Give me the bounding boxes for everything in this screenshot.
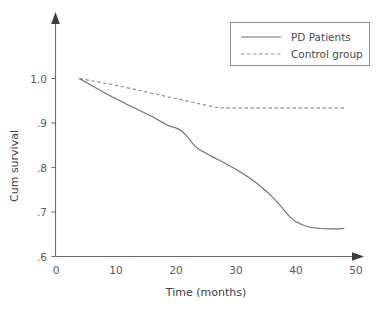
- y-tick-label: 1.0: [30, 73, 47, 85]
- series-line-control-group: [80, 79, 344, 108]
- y-axis-tick-labels: 1.0 .9 .8 .7 .6: [30, 73, 47, 263]
- y-tick-label: .8: [37, 162, 47, 174]
- y-tick-label: .6: [37, 251, 47, 263]
- x-tick-label: 50: [349, 264, 362, 276]
- x-axis-tick-labels: 0 10 20 30 40 50: [53, 264, 363, 276]
- x-tick-label: 10: [109, 264, 122, 276]
- x-tick-label: 40: [289, 264, 302, 276]
- x-axis-arrow-icon: [352, 252, 364, 261]
- y-axis-ticks: [52, 79, 56, 257]
- legend-label: Control group: [291, 48, 363, 60]
- y-axis-arrow-icon: [51, 12, 60, 24]
- survival-chart-figure: 1.0 .9 .8 .7 .6 0 10 20 30 40 50 Time (m…: [0, 0, 384, 315]
- y-tick-label: .9: [37, 117, 47, 129]
- y-axis-title: Cum survival: [8, 130, 21, 202]
- x-axis: [56, 252, 365, 261]
- x-tick-label: 30: [229, 264, 242, 276]
- x-axis-title: Time (months): [165, 286, 246, 299]
- plot-series-group: [80, 79, 344, 229]
- y-axis: [51, 12, 60, 257]
- x-tick-label: 0: [53, 264, 60, 276]
- x-tick-label: 20: [169, 264, 182, 276]
- y-tick-label: .7: [37, 206, 47, 218]
- chart-legend[interactable]: PD Patients Control group: [231, 23, 370, 66]
- series-line-pd-patients: [80, 79, 344, 229]
- legend-label: PD Patients: [291, 31, 351, 43]
- chart-svg: 1.0 .9 .8 .7 .6 0 10 20 30 40 50 Time (m…: [0, 0, 384, 315]
